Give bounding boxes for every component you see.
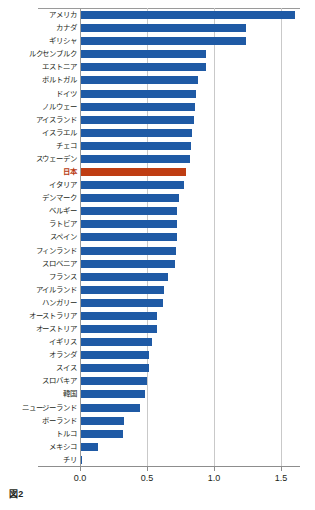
bar-row: スペイン bbox=[0, 230, 315, 244]
bar-row: ハンガリー bbox=[0, 296, 315, 310]
bar bbox=[81, 37, 246, 45]
category-label: スウェーデン bbox=[3, 152, 77, 166]
figure-container: アメリカカナダギリシャルクセンブルクエストニアポルトガルドイツノルウェーアイスラ… bbox=[0, 0, 315, 510]
bar bbox=[81, 103, 195, 111]
category-label: ギリシャ bbox=[3, 34, 77, 48]
bar-row: ポルトガル bbox=[0, 73, 315, 87]
bar-row: メキシコ bbox=[0, 440, 315, 454]
bar bbox=[81, 194, 179, 202]
bar-row: スロバキア bbox=[0, 374, 315, 388]
x-axis-tick-label: 1.0 bbox=[208, 473, 221, 484]
bar bbox=[81, 76, 198, 84]
bar bbox=[81, 390, 145, 398]
bar bbox=[81, 417, 124, 425]
category-label: トルコ bbox=[3, 427, 77, 441]
category-label: ドイツ bbox=[3, 87, 77, 101]
bar-row: カナダ bbox=[0, 21, 315, 35]
bar-row: チェコ bbox=[0, 139, 315, 153]
bar-row: オーストラリア bbox=[0, 309, 315, 323]
category-label: エストニア bbox=[3, 60, 77, 74]
category-label: イギリス bbox=[3, 335, 77, 349]
x-axis-tick bbox=[80, 467, 81, 471]
bar bbox=[81, 273, 168, 281]
bar bbox=[81, 24, 246, 32]
category-label: イスラエル bbox=[3, 126, 77, 140]
bar-row: チリ bbox=[0, 453, 315, 467]
x-axis-tick-label: 0.5 bbox=[141, 473, 154, 484]
bar-row: ギリシャ bbox=[0, 34, 315, 48]
bar-row: オーストリア bbox=[0, 322, 315, 336]
bar-row: エストニア bbox=[0, 60, 315, 74]
bar bbox=[81, 181, 184, 189]
category-label: ラトビア bbox=[3, 217, 77, 231]
bar-row: アメリカ bbox=[0, 8, 315, 22]
bar bbox=[81, 443, 98, 451]
figure-caption: 図2 bbox=[9, 489, 23, 500]
category-label: スイス bbox=[3, 361, 77, 375]
bar bbox=[81, 90, 196, 98]
bar-row: フィンランド bbox=[0, 244, 315, 258]
x-axis-tick bbox=[214, 467, 215, 471]
bar-row: デンマーク bbox=[0, 191, 315, 205]
category-label: アイルランド bbox=[3, 283, 77, 297]
bar bbox=[81, 312, 157, 320]
bar-row: イギリス bbox=[0, 335, 315, 349]
category-label: ハンガリー bbox=[3, 296, 77, 310]
bar bbox=[81, 220, 177, 228]
bar bbox=[81, 207, 177, 215]
bar-row: イスラエル bbox=[0, 126, 315, 140]
x-axis-tick-label: 0.0 bbox=[74, 473, 87, 484]
category-label: チェコ bbox=[3, 139, 77, 153]
bar bbox=[81, 364, 149, 372]
bar bbox=[81, 299, 163, 307]
category-label: フランス bbox=[3, 270, 77, 284]
bar bbox=[81, 11, 295, 19]
category-label: アメリカ bbox=[3, 8, 77, 22]
bar bbox=[81, 338, 152, 346]
bar-row: アイスランド bbox=[0, 113, 315, 127]
category-label: ポルトガル bbox=[3, 73, 77, 87]
category-label: 日本 bbox=[3, 165, 77, 179]
category-label: 韓国 bbox=[3, 387, 77, 401]
bar bbox=[81, 155, 190, 163]
bar-row: オランダ bbox=[0, 348, 315, 362]
category-label: チリ bbox=[3, 453, 77, 467]
bar-row: スロベニア bbox=[0, 257, 315, 271]
bar-row: ベルギー bbox=[0, 204, 315, 218]
bar bbox=[81, 63, 206, 71]
bar bbox=[81, 430, 123, 438]
x-axis-tick bbox=[281, 467, 282, 471]
category-label: ノルウェー bbox=[3, 100, 77, 114]
x-axis-line bbox=[38, 466, 300, 467]
bar-chart: アメリカカナダギリシャルクセンブルクエストニアポルトガルドイツノルウェーアイスラ… bbox=[0, 0, 315, 470]
bar-row: トルコ bbox=[0, 427, 315, 441]
bar bbox=[81, 260, 175, 268]
bar-row: 韓国 bbox=[0, 387, 315, 401]
category-label: フィンランド bbox=[3, 244, 77, 258]
category-label: ニュージーランド bbox=[3, 401, 77, 415]
category-label: メキシコ bbox=[3, 440, 77, 454]
bar bbox=[81, 129, 192, 137]
bar-row: ポーランド bbox=[0, 414, 315, 428]
category-label: アイスランド bbox=[3, 113, 77, 127]
category-label: ルクセンブルク bbox=[3, 47, 77, 61]
category-label: ポーランド bbox=[3, 414, 77, 428]
category-label: デンマーク bbox=[3, 191, 77, 205]
bar bbox=[81, 50, 206, 58]
category-label: カナダ bbox=[3, 21, 77, 35]
category-label: スロバキア bbox=[3, 374, 77, 388]
category-label: スロベニア bbox=[3, 257, 77, 271]
x-axis-tick bbox=[147, 467, 148, 471]
category-label: ベルギー bbox=[3, 204, 77, 218]
bar bbox=[81, 142, 191, 150]
bar-row: アイルランド bbox=[0, 283, 315, 297]
x-axis-tick-label: 1.5 bbox=[275, 473, 288, 484]
bar-row: ノルウェー bbox=[0, 100, 315, 114]
bar-row: ドイツ bbox=[0, 87, 315, 101]
bar bbox=[81, 168, 186, 176]
bar bbox=[81, 377, 147, 385]
bar bbox=[81, 286, 164, 294]
bar-row: ルクセンブルク bbox=[0, 47, 315, 61]
bar bbox=[81, 351, 149, 359]
bar bbox=[81, 247, 176, 255]
